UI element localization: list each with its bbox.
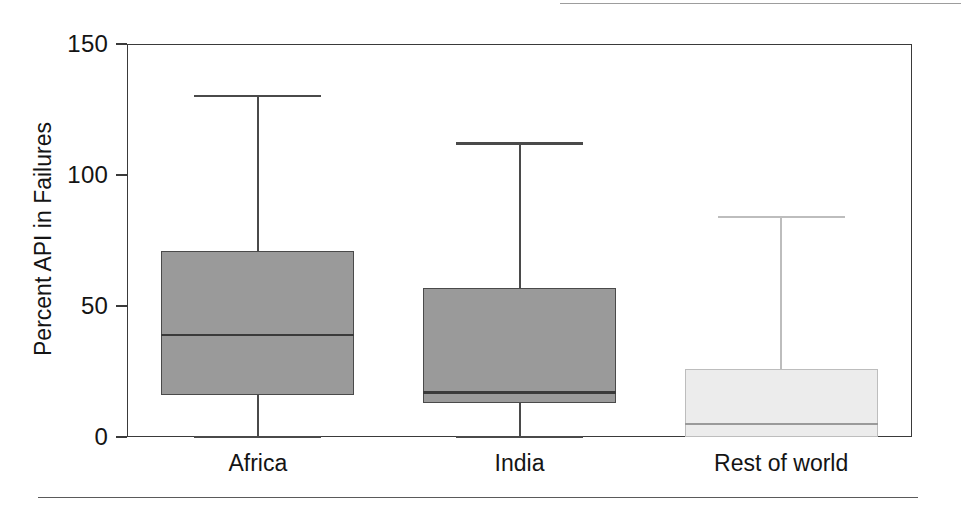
- box-iqr: [423, 288, 616, 403]
- y-tick-label-text: 0: [0, 425, 108, 449]
- box-iqr: [161, 251, 354, 395]
- whisker-upper-cap: [456, 142, 583, 144]
- y-tick-mark: [116, 305, 127, 307]
- y-tick-mark: [116, 43, 127, 45]
- box-iqr: [685, 369, 878, 437]
- whisker-upper-line: [257, 96, 259, 251]
- whisker-lower-line: [519, 403, 521, 437]
- y-tick-label: 100: [0, 163, 108, 187]
- x-axis-label-3: Rest of world: [650, 450, 912, 476]
- whisker-lower-cap: [194, 436, 321, 438]
- y-tick-label: 0: [0, 425, 108, 449]
- y-axis-title: Percent API in Failures: [30, 79, 56, 399]
- box-median-line: [685, 423, 878, 426]
- y-tick-label: 50: [0, 294, 108, 318]
- whisker-lower-cap: [456, 436, 583, 438]
- box-plot-figure: Percent API in Failures 050100150 Africa…: [0, 0, 961, 516]
- whisker-upper-line: [780, 217, 782, 369]
- bottom-divider-rule: [38, 497, 918, 498]
- top-divider-rule: [560, 3, 961, 4]
- whisker-upper-line: [519, 144, 521, 288]
- box-median-line: [423, 391, 616, 394]
- y-tick-label-text: 100: [0, 163, 108, 187]
- y-tick-label-text: 50: [0, 294, 108, 318]
- whisker-upper-cap: [718, 216, 845, 218]
- y-tick-mark: [116, 174, 127, 176]
- x-axis-label-2: India: [389, 450, 651, 476]
- whisker-upper-cap: [194, 95, 321, 97]
- x-axis-label-1: Africa: [127, 450, 389, 476]
- whisker-lower-line: [257, 395, 259, 437]
- box-median-line: [161, 334, 354, 337]
- y-tick-mark: [116, 436, 127, 438]
- y-tick-label: 150: [0, 32, 108, 56]
- y-tick-label-text: 150: [0, 32, 108, 56]
